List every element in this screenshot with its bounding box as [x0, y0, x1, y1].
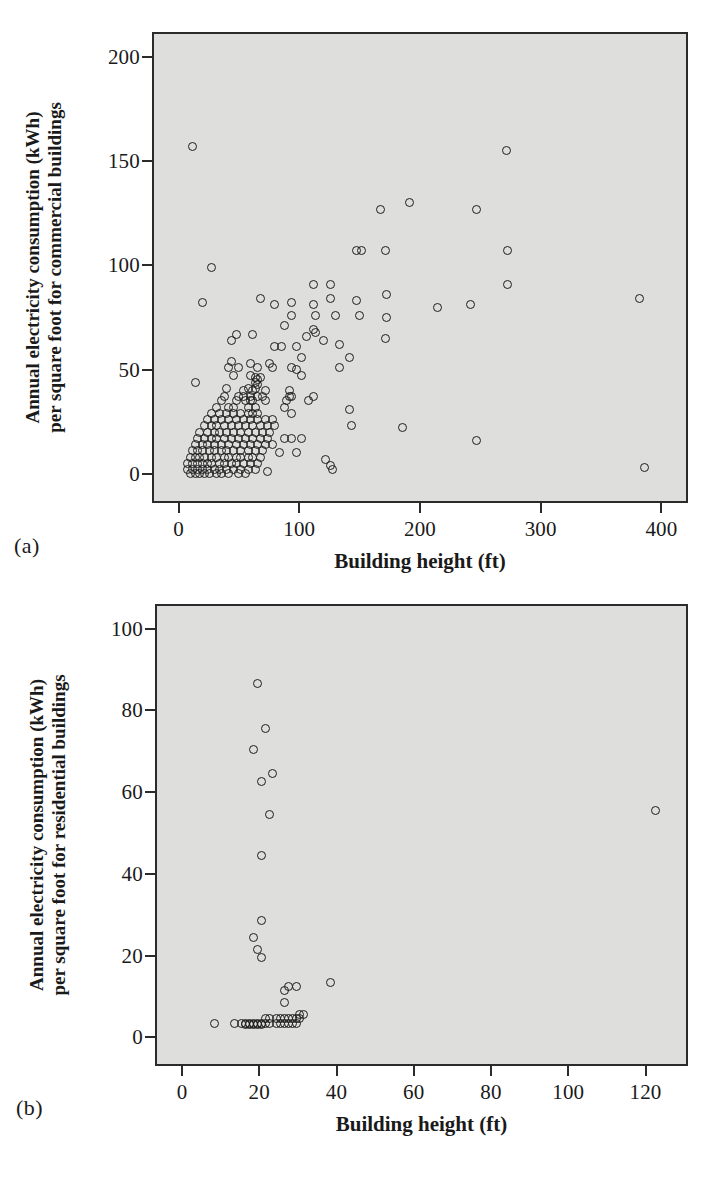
data-point: [472, 436, 481, 445]
y-tick-label: 200: [108, 45, 140, 70]
plot-area-a: [152, 32, 688, 503]
data-point: [224, 469, 233, 478]
y-tick-mark: [145, 791, 155, 793]
data-point: [382, 290, 391, 299]
data-point: [503, 280, 512, 289]
data-point: [287, 311, 296, 320]
x-tick-mark: [540, 503, 542, 513]
data-point: [326, 294, 335, 303]
data-point: [275, 448, 284, 457]
y-tick-mark: [142, 473, 152, 475]
scatter-points-b: [157, 606, 686, 1064]
data-point: [256, 294, 265, 303]
data-point: [261, 396, 270, 405]
y-tick-label: 50: [119, 357, 140, 382]
data-point: [261, 724, 270, 733]
x-tick-label: 300: [525, 517, 557, 542]
data-point: [381, 246, 390, 255]
data-point: [277, 342, 286, 351]
x-axis-title-b: Building height (ft): [155, 1112, 688, 1137]
data-point: [309, 300, 318, 309]
x-tick-mark: [660, 503, 662, 513]
data-point: [345, 405, 354, 414]
x-tick-label: 400: [645, 517, 677, 542]
x-tick-label: 100: [283, 517, 315, 542]
data-point: [382, 313, 391, 322]
x-tick-mark: [419, 503, 421, 513]
data-point: [198, 298, 207, 307]
data-point: [280, 986, 289, 995]
x-tick-mark: [181, 1066, 183, 1076]
y-tick-label: 0: [132, 1025, 143, 1050]
panel-b: Annual electricity consumption (kWh) per…: [0, 590, 716, 1181]
data-point: [466, 300, 475, 309]
data-point: [287, 409, 296, 418]
panel-label-a: (a): [14, 533, 40, 559]
data-point: [345, 353, 354, 362]
data-point: [376, 205, 385, 214]
data-point: [253, 363, 262, 372]
panel-label-b: (b): [16, 1095, 43, 1121]
data-point: [635, 294, 644, 303]
data-point: [249, 745, 258, 754]
x-tick-label: 0: [173, 517, 184, 542]
data-point: [355, 311, 364, 320]
data-point: [502, 146, 511, 155]
x-tick-label: 120: [629, 1080, 661, 1105]
data-point: [398, 423, 407, 432]
y-tick-label: 100: [111, 616, 143, 641]
data-point: [292, 342, 301, 351]
figure-container: Annual electricity consumption (kWh) per…: [0, 0, 716, 1181]
data-point: [297, 371, 306, 380]
data-point: [326, 280, 335, 289]
y-tick-mark: [145, 873, 155, 875]
data-point: [249, 933, 258, 942]
y-tick-mark: [142, 369, 152, 371]
data-point: [319, 336, 328, 345]
y-tick-mark: [142, 264, 152, 266]
data-point: [357, 246, 366, 255]
x-tick-label: 200: [404, 517, 436, 542]
x-tick-mark: [490, 1066, 492, 1076]
data-point: [640, 463, 649, 472]
data-point: [352, 296, 361, 305]
data-point: [210, 1019, 219, 1028]
data-point: [328, 465, 337, 474]
data-point: [287, 298, 296, 307]
data-point: [287, 434, 296, 443]
data-point: [270, 300, 279, 309]
y-tick-mark: [145, 628, 155, 630]
plot-area-b: [155, 604, 688, 1066]
data-point: [299, 1010, 308, 1019]
y-tick-mark: [145, 955, 155, 957]
data-point: [207, 263, 216, 272]
data-point: [335, 340, 344, 349]
data-point: [405, 198, 414, 207]
data-point: [257, 953, 266, 962]
data-point: [232, 330, 241, 339]
x-tick-mark: [567, 1066, 569, 1076]
x-tick-mark: [258, 1066, 260, 1076]
y-tick-label: 0: [129, 461, 140, 486]
x-tick-label: 40: [326, 1080, 347, 1105]
data-point: [651, 806, 660, 815]
panel-a: Annual electricity consumption (kWh) per…: [0, 0, 716, 590]
data-point: [241, 469, 250, 478]
data-point: [229, 371, 238, 380]
y-tick-label: 60: [122, 780, 143, 805]
x-tick-mark: [336, 1066, 338, 1076]
x-axis-ticks-b: 020406080100120: [0, 1080, 716, 1110]
data-point: [268, 769, 277, 778]
y-tick-label: 20: [122, 943, 143, 968]
data-point: [297, 434, 306, 443]
y-tick-mark: [145, 709, 155, 711]
data-point: [503, 246, 512, 255]
y-tick-mark: [145, 1036, 155, 1038]
x-tick-label: 60: [403, 1080, 424, 1105]
x-tick-mark: [178, 503, 180, 513]
data-point: [263, 467, 272, 476]
x-tick-label: 20: [249, 1080, 270, 1105]
x-tick-label: 80: [480, 1080, 501, 1105]
data-point: [268, 363, 277, 372]
data-point: [472, 205, 481, 214]
